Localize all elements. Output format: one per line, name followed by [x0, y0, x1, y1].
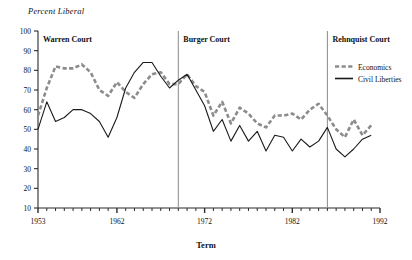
- x-tick-label: 1972: [197, 217, 212, 226]
- y-tick-label: 50: [11, 125, 31, 134]
- y-tick-label: 90: [11, 46, 31, 55]
- y-tick-label: 40: [11, 145, 31, 154]
- y-tick-label: 30: [11, 164, 31, 173]
- era-label-rehnquist-court: Rehnquist Court: [332, 35, 390, 44]
- legend-swatch-icon: [335, 64, 353, 71]
- y-tick-label: 100: [11, 27, 31, 36]
- x-tick-label: 1992: [373, 217, 388, 226]
- era-label-warren-court: Warren Court: [43, 35, 92, 44]
- x-tick-label: 1962: [109, 217, 124, 226]
- y-tick-label: 70: [11, 86, 31, 95]
- legend-label: Economics: [358, 63, 391, 72]
- series-line-economics: [38, 64, 371, 137]
- legend-item-economics: Economics: [335, 63, 391, 72]
- legend-swatch-icon: [335, 76, 353, 83]
- x-axis-title: Term: [0, 240, 412, 250]
- y-tick-label: 80: [11, 66, 31, 75]
- chart-figure: Percent Liberal 102030405060708090100 19…: [0, 0, 412, 260]
- era-label-burger-court: Burger Court: [183, 35, 230, 44]
- legend-item-civil-liberties: Civil Liberties: [335, 75, 402, 84]
- y-tick-label: 20: [11, 184, 31, 193]
- y-tick-label: 60: [11, 105, 31, 114]
- series-line-civil-liberties: [38, 62, 371, 156]
- y-tick-label: 10: [11, 204, 31, 213]
- x-tick-label: 1982: [285, 217, 300, 226]
- legend-label: Civil Liberties: [358, 75, 402, 84]
- x-tick-label: 1953: [31, 217, 46, 226]
